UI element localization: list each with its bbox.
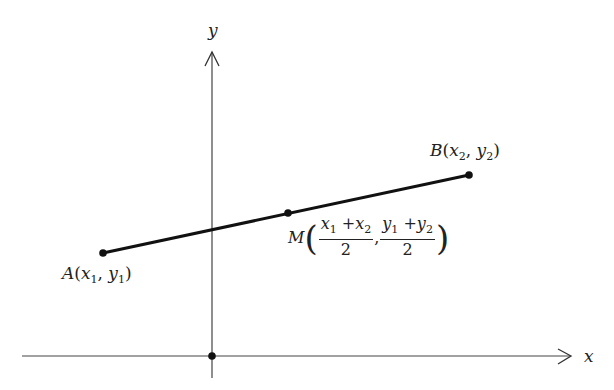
point-a-name: A xyxy=(62,263,74,283)
m-y-fraction: y1 +y22 xyxy=(380,215,435,260)
point-b-label: B(x2, y2) xyxy=(430,140,500,163)
m-x-fraction: x1 +x22 xyxy=(319,215,374,260)
diagram-canvas xyxy=(0,0,614,390)
m-open-paren: ( xyxy=(304,218,317,258)
a-y: y xyxy=(108,263,118,283)
b-x: x xyxy=(449,140,459,160)
close-paren: ) xyxy=(493,140,500,160)
m-y-den: 2 xyxy=(380,240,435,260)
b-y: y xyxy=(477,140,487,160)
m-x-den: 2 xyxy=(319,240,374,260)
m-y2-sub: 2 xyxy=(426,223,433,236)
point-m-label: M(x1 +x22,y1 +y22) xyxy=(288,215,449,260)
comma: , xyxy=(466,140,477,160)
a-y-sub: 1 xyxy=(118,273,125,286)
m-y2: y xyxy=(417,214,426,233)
m-comma: , xyxy=(374,228,379,247)
m-plus: + xyxy=(342,214,355,233)
m-x2-sub: 2 xyxy=(364,223,371,236)
m-x1-sub: 1 xyxy=(330,223,337,236)
point-m-name: M xyxy=(288,228,304,247)
point-b-name: B xyxy=(430,140,443,160)
open-paren: ( xyxy=(74,263,81,283)
comma: , xyxy=(98,263,109,283)
m-plus: + xyxy=(403,214,416,233)
y-axis-label: y xyxy=(208,20,218,40)
point-a-label: A(x1, y1) xyxy=(62,263,132,286)
m-y1: y xyxy=(382,214,391,233)
a-x: x xyxy=(81,263,91,283)
origin-point xyxy=(208,352,216,360)
m-close-paren: ) xyxy=(436,218,449,258)
point-a xyxy=(99,249,107,257)
x-axis-label: x xyxy=(584,346,594,366)
m-x1: x xyxy=(321,214,330,233)
b-x-sub: 2 xyxy=(459,150,466,163)
a-x-sub: 1 xyxy=(91,273,98,286)
close-paren: ) xyxy=(125,263,132,283)
m-x2: x xyxy=(355,214,364,233)
m-y1-sub: 1 xyxy=(391,223,398,236)
point-b xyxy=(465,171,473,179)
